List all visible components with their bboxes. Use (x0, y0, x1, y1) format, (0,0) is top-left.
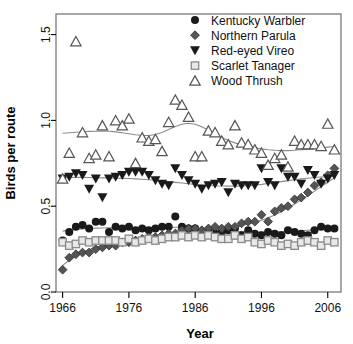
legend-marker-filled-circle (191, 16, 199, 24)
data-point (105, 228, 113, 236)
data-point (65, 228, 73, 236)
x-tick-label: 1976 (116, 301, 143, 315)
legend-label: Kentucky Warbler (211, 14, 305, 28)
data-point (98, 218, 106, 226)
y-axis-title: Birds per route (3, 106, 18, 199)
x-tick-label: 1996 (248, 301, 275, 315)
legend-label: Wood Thrush (211, 74, 283, 88)
data-point (171, 212, 179, 220)
legend-label: Scarlet Tanager (211, 59, 295, 73)
data-point (330, 225, 338, 233)
x-tick-label: 1966 (49, 301, 76, 315)
x-tick-label: 1986 (182, 301, 209, 315)
legend-label: Northern Parula (211, 29, 296, 43)
bird-abundance-chart: 0.00.51.01.5 19661976198619962006 Kentuc… (0, 0, 353, 344)
y-tick-label: 1.5 (39, 26, 53, 43)
legend-label: Red-eyed Vireo (211, 44, 294, 58)
y-tick-label: 0.0 (39, 283, 53, 300)
y-tick-label: 0.5 (39, 198, 53, 215)
chart-canvas: 0.00.51.01.5 19661976198619962006 Kentuc… (0, 0, 353, 344)
legend-marker-open-square (191, 62, 198, 69)
x-tick-label: 2006 (314, 301, 341, 315)
y-tick-label: 1.0 (39, 112, 53, 129)
data-point (85, 225, 93, 233)
data-point (331, 239, 338, 246)
x-axis-title: Year (186, 326, 213, 341)
